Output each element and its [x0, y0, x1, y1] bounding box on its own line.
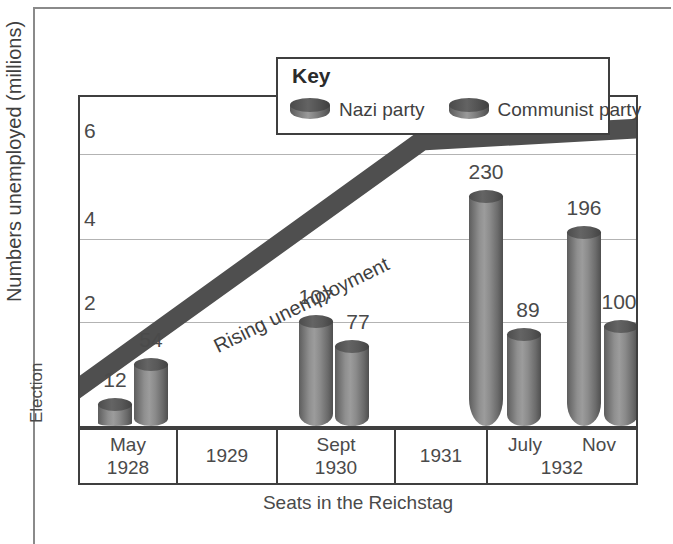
bar-value-label: 230	[451, 160, 521, 184]
bar-nazi-1928[interactable]: 12	[98, 404, 132, 426]
bar-communist-nov1932[interactable]: 100	[604, 326, 638, 426]
y-axis-title: Numbers unemployed (millions)	[3, 0, 26, 362]
key-item-nazi[interactable]: Nazi party	[290, 98, 425, 122]
bar-value-label: 77	[323, 310, 393, 334]
bar-top-ellipse	[98, 398, 132, 411]
bar-top-ellipse	[507, 328, 541, 341]
bar-communist-1930[interactable]: 77	[335, 346, 369, 426]
bar-body	[507, 334, 541, 426]
bar-communist-1928[interactable]: 54	[134, 364, 168, 426]
bar-top-ellipse	[567, 226, 601, 239]
election-cell-month-nov: Nov	[582, 434, 616, 456]
election-cell-year: 1932	[541, 457, 583, 479]
gridline-4	[80, 239, 636, 240]
bar-value-label: 89	[493, 298, 563, 322]
bar-top-ellipse	[604, 320, 638, 333]
election-row-label: Election	[27, 343, 49, 423]
key-items: Nazi party Communist party	[290, 98, 641, 122]
election-cell-year: 1931	[420, 445, 462, 467]
x-axis-title: Seats in the Reichstag	[78, 492, 638, 514]
bar-top-ellipse	[134, 358, 168, 371]
bar-body	[604, 326, 638, 426]
key-item-communist[interactable]: Communist party	[449, 98, 642, 122]
election-cell-year: 1930	[315, 457, 357, 479]
election-table: May 1928 1929 Sept 1930 1931 July Nov 19…	[78, 428, 638, 485]
election-cell-month-july: July	[508, 434, 542, 456]
cylinder-icon	[290, 98, 330, 122]
bar-value-label: 100	[584, 290, 638, 314]
key-title: Key	[292, 64, 331, 88]
key-item-label: Communist party	[498, 99, 642, 121]
election-cell-month: Sept	[316, 434, 355, 456]
election-cell-month: May	[110, 434, 146, 456]
bar-body	[299, 321, 333, 426]
key-item-label: Nazi party	[339, 99, 425, 121]
bar-value-label: 54	[116, 328, 186, 352]
bar-top-ellipse	[469, 190, 503, 203]
bar-top-ellipse	[335, 340, 369, 353]
election-cell-1932[interactable]: July Nov 1932	[488, 430, 636, 483]
bar-nazi-nov1932[interactable]: 196	[567, 232, 601, 426]
cylinder-icon	[449, 98, 489, 122]
key-box: Key Nazi party Communist party	[276, 57, 610, 135]
gridline-6	[80, 154, 636, 155]
election-cell-months: July Nov	[488, 434, 636, 456]
plot-area: Rising unemployment 12 54 107 77	[78, 95, 638, 428]
election-cell-1931[interactable]: 1931	[396, 430, 488, 483]
chart-figure: Numbers unemployed (millions) 6 4 2 Risi…	[0, 0, 673, 544]
bar-communist-jul1932[interactable]: 89	[507, 334, 541, 426]
bar-nazi-1930[interactable]: 107	[299, 321, 333, 426]
bar-value-label: 196	[549, 196, 619, 220]
election-cell-1928[interactable]: May 1928	[80, 430, 178, 483]
election-cell-year: 1929	[206, 445, 248, 467]
election-cell-1929[interactable]: 1929	[178, 430, 278, 483]
bar-value-label: 107	[281, 285, 351, 309]
bar-body	[134, 364, 168, 426]
bar-body	[335, 346, 369, 426]
election-cell-1930[interactable]: Sept 1930	[278, 430, 396, 483]
election-cell-year: 1928	[107, 457, 149, 479]
bar-body	[567, 232, 601, 426]
